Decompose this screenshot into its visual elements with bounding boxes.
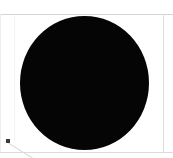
top-border-rule (0, 14, 173, 15)
screenshot-root (0, 0, 173, 158)
black-filled-circle[interactable] (20, 16, 149, 150)
small-square-marker[interactable] (6, 139, 10, 143)
left-border-rule (0, 14, 1, 152)
right-border-rule (163, 14, 164, 152)
faint-vertical-seam (14, 16, 15, 142)
